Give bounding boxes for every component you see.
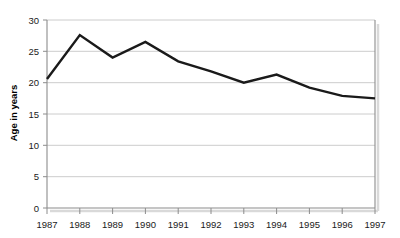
y-axis-label: Age in years bbox=[8, 85, 19, 142]
ytick-label-0: 0 bbox=[34, 203, 39, 214]
xtick-label-1992: 1992 bbox=[200, 219, 221, 230]
line-chart: 30 25 20 15 10 5 0 1987 1988 1989 1990 bbox=[0, 0, 400, 238]
ytick-label-10: 10 bbox=[28, 140, 39, 151]
ytick-label-5: 5 bbox=[34, 171, 39, 182]
xtick-label-1993: 1993 bbox=[233, 219, 254, 230]
ytick-label-30: 30 bbox=[28, 15, 39, 26]
xtick-label-1988: 1988 bbox=[69, 219, 90, 230]
chart-container: 30 25 20 15 10 5 0 1987 1988 1989 1990 bbox=[0, 0, 400, 238]
xtick-label-1991: 1991 bbox=[168, 219, 189, 230]
ytick-label-20: 20 bbox=[28, 77, 39, 88]
xtick-label-1989: 1989 bbox=[102, 219, 123, 230]
xtick-label-1997: 1997 bbox=[364, 219, 385, 230]
xtick-label-1994: 1994 bbox=[266, 219, 287, 230]
xtick-label-1990: 1990 bbox=[135, 219, 156, 230]
xtick-label-1995: 1995 bbox=[299, 219, 320, 230]
ytick-label-25: 25 bbox=[28, 46, 39, 57]
ytick-label-15: 15 bbox=[28, 109, 39, 120]
chart-background bbox=[0, 0, 400, 238]
xtick-label-1987: 1987 bbox=[36, 219, 57, 230]
x-axis-tick-labels: 1987 1988 1989 1990 1991 1992 1993 1994 … bbox=[36, 219, 385, 230]
xtick-label-1996: 1996 bbox=[332, 219, 353, 230]
